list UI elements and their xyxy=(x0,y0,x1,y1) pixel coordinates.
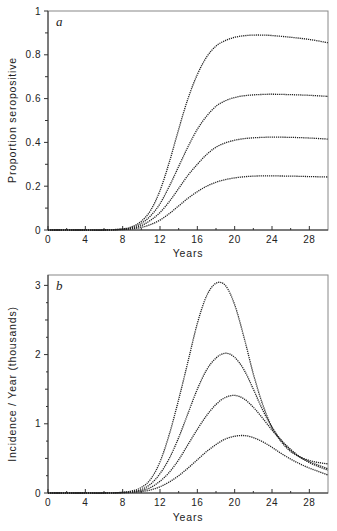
series-line-3 xyxy=(48,395,328,493)
plot-frame-a xyxy=(48,11,328,230)
x-tick-label: 0 xyxy=(45,497,51,508)
panel-a: 048121620242800.20.40.60.81 a Years Prop… xyxy=(6,6,328,260)
series-line-4 xyxy=(48,435,328,493)
series-line-2 xyxy=(48,353,328,493)
panel-letter-a: a xyxy=(56,14,63,29)
x-tick-label: 4 xyxy=(82,234,88,245)
y-tick-label: 3 xyxy=(35,280,41,291)
x-tick-label: 20 xyxy=(229,234,241,245)
x-tick-label: 8 xyxy=(120,234,126,245)
x-tick-label: 24 xyxy=(266,497,278,508)
x-tick-label: 24 xyxy=(266,234,278,245)
series-line-3 xyxy=(48,137,328,230)
series-line-1 xyxy=(48,35,328,230)
x-axis-label-a: Years xyxy=(173,247,203,259)
curves-b xyxy=(48,282,328,493)
y-axis-label-a: Proportion seropositive xyxy=(6,57,18,183)
y-tick-label: 0 xyxy=(35,488,41,499)
ticks-a: 048121620242800.20.40.60.81 xyxy=(26,6,316,246)
x-tick-label: 4 xyxy=(82,497,88,508)
x-axis-label-b: Years xyxy=(173,511,203,523)
y-tick-label: 1 xyxy=(35,418,41,429)
x-tick-label: 8 xyxy=(120,497,126,508)
y-tick-label: 0.4 xyxy=(26,137,41,148)
x-tick-label: 28 xyxy=(303,234,315,245)
x-tick-label: 20 xyxy=(229,497,241,508)
curves-a xyxy=(48,35,328,230)
x-tick-label: 12 xyxy=(154,497,166,508)
y-axis-label-b: Incidence / Year (thousands) xyxy=(6,306,18,462)
series-line-4 xyxy=(48,176,328,230)
y-tick-label: 0.8 xyxy=(26,49,41,60)
y-tick-label: 2 xyxy=(35,349,41,360)
x-tick-label: 16 xyxy=(191,234,203,245)
y-tick-label: 0 xyxy=(35,225,41,236)
y-tick-label: 0.6 xyxy=(26,93,41,104)
y-tick-label: 0.2 xyxy=(26,181,41,192)
x-tick-label: 16 xyxy=(191,497,203,508)
y-tick-label: 1 xyxy=(35,6,41,17)
panel-b: 04812162024280123 b Years Incidence / Ye… xyxy=(6,275,328,523)
series-line-2 xyxy=(48,94,328,230)
x-tick-label: 0 xyxy=(45,234,51,245)
panel-letter-b: b xyxy=(56,278,63,293)
x-tick-label: 28 xyxy=(303,497,315,508)
x-tick-label: 12 xyxy=(154,234,166,245)
figure: 048121620242800.20.40.60.81 a Years Prop… xyxy=(0,0,337,531)
plot-frame-b xyxy=(48,275,328,493)
ticks-b: 04812162024280123 xyxy=(35,280,315,508)
series-line-1 xyxy=(48,282,328,493)
